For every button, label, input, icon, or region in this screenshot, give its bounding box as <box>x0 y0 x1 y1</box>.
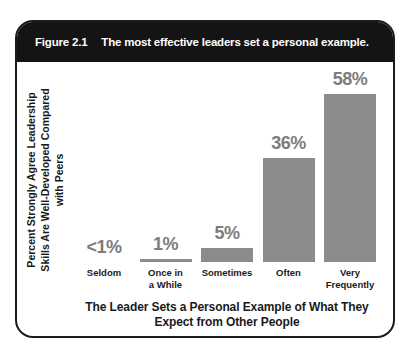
bar-very-frequently <box>324 94 376 262</box>
bar-value-label: 36% <box>271 134 306 154</box>
bar-group-seldom: <1% Seldom <box>75 68 133 291</box>
bar-value-label: 1% <box>153 235 178 255</box>
bar-value-label: 5% <box>214 224 239 244</box>
bar-group-sometimes: 5% Sometimes <box>198 68 256 291</box>
figure-number: Figure 2.1 <box>35 36 87 48</box>
x-axis-label: The Leader Sets a Personal Example of Wh… <box>75 300 379 331</box>
bar-once-in-a-while <box>140 259 192 262</box>
bar-often <box>263 158 315 262</box>
bar-group-once-in-a-while: 1% Once in a While <box>137 68 195 291</box>
figure-box: Figure 2.1 The most effective leaders se… <box>15 20 395 338</box>
category-label: Once in a While <box>148 267 183 291</box>
bar-value-label: 58% <box>333 70 368 90</box>
category-label: Seldom <box>87 267 121 279</box>
chart-area: Percent Strongly Agree Leadership Skills… <box>17 62 393 338</box>
category-label: Sometimes <box>202 267 253 279</box>
figure-title: The most effective leaders set a persona… <box>101 36 368 48</box>
bar-group-often: 36% Often <box>260 68 318 291</box>
bar-value-label: <1% <box>86 238 121 258</box>
category-label: Very Frequently <box>326 267 375 291</box>
figure-header: Figure 2.1 The most effective leaders se… <box>17 22 393 62</box>
plot-area: <1% Seldom 1% Once in a While 5% <box>75 68 379 338</box>
bar-sometimes <box>201 248 253 263</box>
y-axis: Percent Strongly Agree Leadership Skills… <box>17 68 75 338</box>
y-axis-label: Percent Strongly Agree Leadership Skills… <box>25 73 67 288</box>
bars-row: <1% Seldom 1% Once in a While 5% <box>75 68 379 291</box>
category-label: Often <box>276 267 301 279</box>
bar-group-very-frequently: 58% Very Frequently <box>321 68 379 291</box>
